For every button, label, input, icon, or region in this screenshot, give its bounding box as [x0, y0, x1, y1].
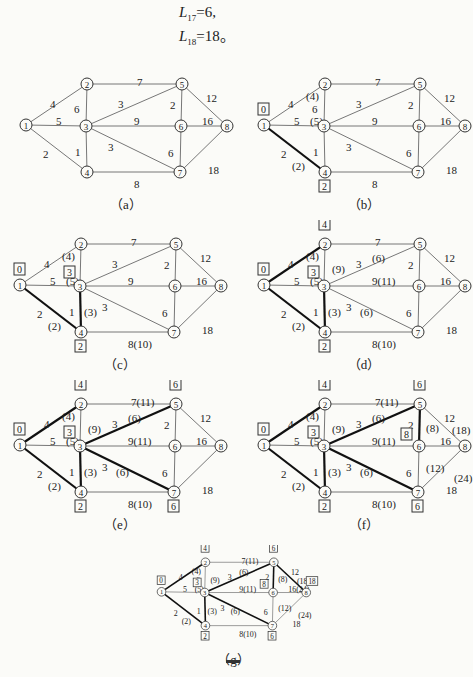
node-label: 7 — [416, 168, 421, 178]
edge-weight: 18 — [208, 164, 220, 176]
edge-weight: 6 — [406, 147, 412, 159]
node-label: 5 — [418, 400, 423, 410]
edge-weight: 9(11) — [372, 275, 396, 288]
edge-weight: 4 — [44, 418, 50, 430]
graph-svg: 4(4)5(5)2(2)6(9)7(11)1(3)3(6)9(11)3(6)8(… — [150, 545, 323, 653]
edge-weight: 5 — [294, 435, 300, 447]
edge-weight: 6 — [406, 467, 412, 479]
panel-d: 4(4)5(5)2(2)6(9)71(3)3(6)9(11)3(6)8(10)2… — [248, 220, 473, 374]
node-label: 6 — [417, 282, 422, 292]
edge-weight: 6 — [162, 467, 168, 479]
edge-3-4 — [324, 126, 325, 172]
edge-distance: (2) — [292, 160, 305, 173]
permanent-label: 3 — [311, 427, 316, 438]
edge-weight: 16 — [202, 115, 214, 127]
panel-caption: （g） — [204, 649, 264, 668]
edge-weight: 18 — [446, 484, 458, 496]
edge-weight: 6 — [168, 147, 174, 159]
edge-distance: (18) — [452, 424, 471, 437]
edge-weight: 4 — [288, 98, 294, 110]
permanent-label: 4 — [78, 380, 83, 390]
edge-6-7 — [418, 286, 419, 332]
panel-caption: （d） — [334, 354, 394, 373]
edge-weight: 12 — [444, 92, 455, 104]
node-label: 4 — [85, 168, 90, 178]
panel-caption: （a） — [96, 194, 156, 213]
node-label: 2 — [323, 240, 328, 250]
edge-distance: (6) — [372, 412, 385, 425]
edge-3-4 — [80, 286, 81, 332]
edge-weight: 8(10) — [372, 338, 396, 351]
node-label: 7 — [172, 488, 177, 498]
node-label: 2 — [79, 400, 84, 410]
edge-weight: 1 — [313, 306, 319, 318]
edge-weight: 16 — [196, 275, 208, 287]
edge-weight: 4 — [288, 258, 294, 270]
edge-3-4 — [205, 593, 206, 626]
edge-weight: 5 — [50, 435, 56, 447]
edge-weight: 7(11) — [131, 396, 155, 409]
edge-6-7 — [418, 446, 419, 492]
edge-distance: (4) — [306, 90, 319, 103]
permanent-label: 6 — [173, 380, 178, 390]
edge-weight: 6 — [406, 307, 412, 319]
edge-weight: 1 — [313, 146, 319, 158]
edge-weight: 9 — [128, 275, 134, 287]
edge-weight: 2 — [37, 468, 43, 480]
edge-weight: 2 — [174, 609, 178, 618]
edge-weight: 6 — [162, 307, 168, 319]
value: =6, — [196, 4, 216, 20]
equation-l17: L17=6, — [179, 4, 216, 23]
node-label: 3 — [78, 442, 83, 452]
node-label: 2 — [79, 240, 84, 250]
permanent-label: 3 — [195, 579, 199, 587]
node-label: 2 — [323, 400, 328, 410]
edge-weight: 6 — [264, 608, 268, 617]
edge-distance: (6) — [231, 607, 241, 616]
node-label: 7 — [416, 328, 421, 338]
edge-weight: 2 — [164, 419, 170, 431]
edge-distance: (24) — [298, 611, 312, 620]
node-label: 6 — [417, 122, 422, 132]
edge-distance: (3) — [328, 306, 341, 319]
permanent-label: 8 — [262, 581, 266, 589]
graph-svg: 4(4)5(5)2(2)6(9)7(11)1(3)3(6)9(11)3(6)8(… — [4, 380, 244, 530]
panel-e: 4(4)5(5)2(2)6(9)7(11)1(3)3(6)9(11)3(6)8(… — [4, 380, 244, 534]
permanent-label: 2 — [322, 181, 327, 192]
node-label: 8 — [225, 122, 230, 132]
edge-weight: 5 — [183, 585, 187, 594]
node-label: 7 — [172, 328, 177, 338]
edge-distance: (4) — [306, 250, 319, 263]
node-label: 2 — [204, 559, 207, 566]
edge-weight: 3 — [102, 301, 108, 313]
edge-weight: 3 — [118, 98, 124, 110]
permanent-label: 8 — [404, 429, 409, 440]
edge-weight: 2 — [37, 308, 43, 320]
edge-7-8 — [180, 126, 227, 172]
permanent-label: 4 — [322, 220, 327, 230]
edge-weight: 7(11) — [375, 396, 399, 409]
edge-weight: 7 — [131, 236, 137, 248]
permanent-label: 2 — [203, 633, 207, 641]
edge-weight: 12 — [444, 252, 455, 264]
permanent-label: 0 — [261, 424, 266, 435]
panel-b: 4(4)5(5)2(2)6713938212616181023425678（b） — [248, 60, 473, 214]
edge-weight: 2 — [43, 148, 49, 160]
subscript: 18 — [187, 37, 196, 47]
node-label: 2 — [323, 80, 328, 90]
edge-distance: (2) — [182, 617, 192, 626]
edge-weight: 3 — [356, 418, 362, 430]
edge-weight: 3 — [346, 461, 352, 473]
node-label: 6 — [173, 282, 178, 292]
edge-weight: 3 — [112, 418, 118, 430]
edge-weight: 16 — [440, 115, 452, 127]
node-label: 3 — [322, 442, 327, 452]
edge-6-7 — [174, 286, 175, 332]
node-label: 4 — [323, 168, 328, 178]
node-label: 8 — [463, 282, 468, 292]
edge-weight: 8 — [134, 178, 140, 190]
node-label: 1 — [262, 281, 267, 291]
node-label: 1 — [160, 588, 163, 595]
edge-distance: (8) — [426, 422, 439, 435]
node-label: 3 — [322, 122, 327, 132]
